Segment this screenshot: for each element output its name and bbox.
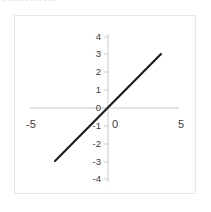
y-tick-label-neg1: -1 [85, 121, 101, 131]
y-tick-label-neg2: -2 [85, 139, 101, 149]
x-tick-label-neg5: -5 [26, 119, 36, 130]
x-tick-label-5: 5 [178, 119, 184, 130]
y-tick-label-0: 0 [87, 103, 101, 113]
y-tick-label-neg4: -4 [85, 174, 101, 184]
chart-screenshot: •••••••••••• 4 3 2 1 [0, 0, 211, 212]
x-tick-label-0: 0 [112, 119, 118, 130]
y-tick-label-3: 3 [87, 49, 101, 59]
y-tick-label-4: 4 [87, 32, 101, 42]
plot-canvas [15, 16, 195, 193]
y-tick-label-1: 1 [87, 85, 101, 95]
y-tick-label-2: 2 [87, 67, 101, 77]
y-tick-label-neg3: -3 [85, 157, 101, 167]
clipped-header-text: •••••••••••• [3, 0, 57, 5]
clipped-header-strip: •••••••••••• [0, 0, 211, 9]
plot-frame: 4 3 2 1 0 -1 -2 -3 -4 -5 0 5 [14, 15, 196, 194]
